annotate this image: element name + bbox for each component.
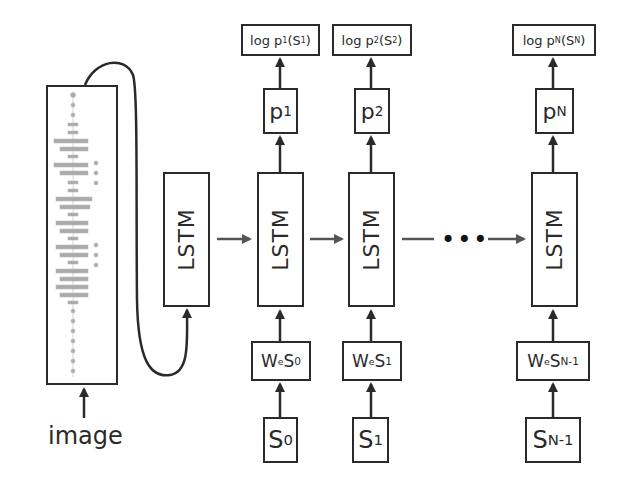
encoder-lstm-box: LSTM: [163, 172, 210, 307]
ellipsis: •••: [441, 226, 489, 254]
loss-box-n: log pN(SN): [512, 24, 596, 56]
embed-w: W: [527, 351, 544, 371]
image-caption: image: [48, 422, 123, 450]
prob-symbol: p: [269, 99, 283, 124]
embed-s: S: [550, 351, 561, 371]
input-box-1: S0: [263, 417, 298, 463]
embed-s: S: [375, 351, 386, 371]
embed-s-sub: N-1: [560, 355, 578, 367]
lstm-box-2: LSTM: [348, 172, 395, 307]
lstm-box-1: LSTM: [257, 172, 304, 307]
prob-symbol: p: [542, 99, 556, 124]
loss-open: (S: [561, 33, 574, 48]
embed-s: S: [284, 351, 295, 371]
loss-close: ): [306, 33, 311, 48]
loss-close: ): [580, 33, 585, 48]
lstm-label: LSTM: [174, 208, 199, 271]
embed-box-n: WeSN-1: [516, 341, 590, 381]
input-sub: 0: [283, 431, 292, 449]
loss-open: (S: [379, 33, 392, 48]
input-box-n: SN-1: [525, 417, 581, 463]
input-s: S: [532, 426, 547, 454]
embed-s-sub: 1: [385, 355, 392, 367]
input-sub: N-1: [548, 431, 574, 449]
loss-box-2: log p2(S2): [332, 24, 412, 56]
embed-s-sub: 0: [294, 355, 301, 367]
prob-sub: 1: [283, 103, 292, 119]
lstm-label: LSTM: [542, 208, 567, 271]
loss-prefix: log p: [250, 33, 282, 48]
loss-open: (S: [287, 33, 300, 48]
loss-box-1: log p1(S1): [241, 24, 320, 56]
input-s: S: [358, 426, 373, 454]
embed-w: W: [261, 351, 278, 371]
lstm-box-n: LSTM: [531, 172, 578, 307]
lstm-label: LSTM: [359, 208, 384, 271]
embed-w: W: [352, 351, 369, 371]
input-s: S: [268, 426, 283, 454]
prob-symbol: p: [361, 99, 375, 124]
loss-prefix: log p: [342, 33, 374, 48]
prob-box-2: p2: [354, 88, 390, 134]
lstm-label: LSTM: [268, 208, 293, 271]
input-box-2: S1: [352, 417, 389, 463]
embed-box-1: WeS0: [251, 341, 311, 381]
loss-prefix: log p: [523, 33, 555, 48]
cnn-image-box: [46, 85, 118, 385]
prob-box-1: p1: [263, 88, 298, 134]
prob-sub: 2: [375, 103, 384, 119]
input-sub: 1: [373, 431, 382, 449]
cnn-graph-icon: [48, 87, 115, 382]
loss-close: ): [397, 33, 402, 48]
embed-box-2: WeS1: [342, 341, 402, 381]
prob-box-n: pN: [535, 88, 574, 134]
prob-sub: N: [556, 103, 566, 119]
